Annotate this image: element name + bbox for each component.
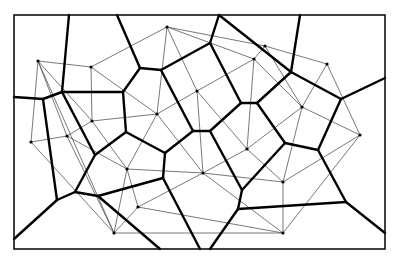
site-point (300, 105, 303, 108)
site-point (263, 44, 266, 47)
site-point (195, 89, 198, 92)
site-point (252, 57, 255, 60)
site-point (36, 59, 39, 62)
site-point (155, 112, 158, 115)
diagram-canvas (0, 0, 397, 260)
site-point (201, 171, 204, 174)
site-point (281, 231, 284, 234)
site-point (165, 25, 168, 28)
site-point (90, 119, 93, 122)
voronoi-delaunay-diagram (0, 0, 397, 260)
site-point (65, 134, 68, 137)
site-point (281, 180, 284, 183)
site-point (89, 65, 92, 68)
site-point (358, 133, 361, 136)
site-point (125, 167, 128, 170)
site-point (325, 62, 328, 65)
site-point (112, 231, 115, 234)
site-point (245, 147, 248, 150)
site-point (29, 140, 32, 143)
site-point (136, 205, 139, 208)
